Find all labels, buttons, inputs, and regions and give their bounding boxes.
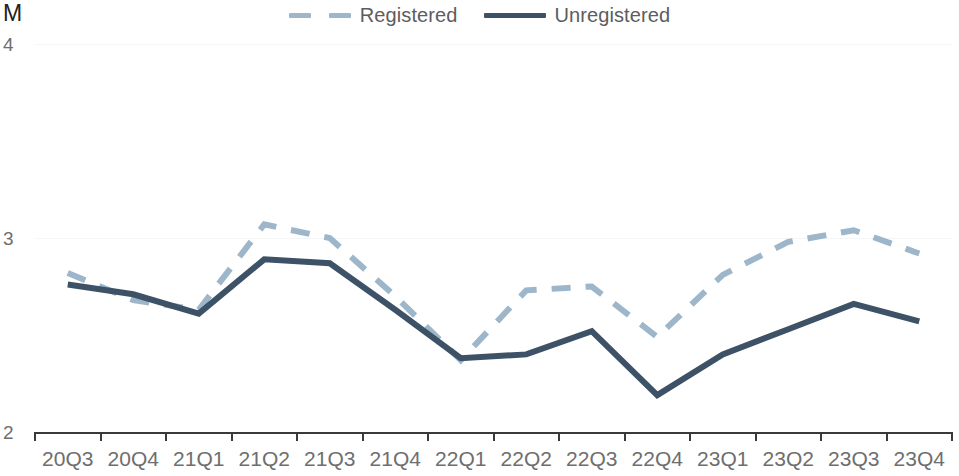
x-axis-tick-mark bbox=[689, 432, 691, 441]
x-axis-tick-mark bbox=[231, 432, 233, 441]
x-axis-tick-label-21q4: 21Q4 bbox=[370, 447, 421, 471]
x-axis-tick-label-21q2: 21Q2 bbox=[239, 447, 290, 471]
chart-plot-area bbox=[0, 0, 959, 476]
x-axis-tick-mark bbox=[165, 432, 167, 441]
x-axis-tick-mark bbox=[558, 432, 560, 441]
line-chart: Registered Unregistered M 4 3 2 20Q320Q4… bbox=[0, 0, 959, 476]
x-axis-tick-label-23q3: 23Q3 bbox=[828, 447, 879, 471]
x-axis-tick-mark bbox=[624, 432, 626, 441]
x-axis-tick-mark bbox=[820, 432, 822, 441]
x-axis-tick-label-20q4: 20Q4 bbox=[108, 447, 159, 471]
x-axis-tick-label-20q3: 20Q3 bbox=[42, 447, 93, 471]
x-axis-tick-mark bbox=[493, 432, 495, 441]
x-axis-tick-label-21q3: 21Q3 bbox=[304, 447, 355, 471]
x-axis-tick-label-22q3: 22Q3 bbox=[566, 447, 617, 471]
x-axis-tick-mark bbox=[755, 432, 757, 441]
x-axis-tick-label-21q1: 21Q1 bbox=[173, 447, 224, 471]
series-line-registered bbox=[68, 224, 920, 360]
x-axis-tick-mark bbox=[886, 432, 888, 441]
x-axis-tick-mark bbox=[34, 432, 36, 441]
x-axis-tick-mark bbox=[427, 432, 429, 441]
series-line-unregistered bbox=[68, 259, 920, 395]
x-axis-tick-label-22q2: 22Q2 bbox=[501, 447, 552, 471]
x-axis-tick-mark bbox=[362, 432, 364, 441]
x-axis-tick-mark bbox=[951, 432, 953, 441]
x-axis-tick-label-22q1: 22Q1 bbox=[435, 447, 486, 471]
x-axis-tick-label-23q4: 23Q4 bbox=[894, 447, 945, 471]
x-axis-tick-mark bbox=[100, 432, 102, 441]
x-axis-tick-label-23q1: 23Q1 bbox=[697, 447, 748, 471]
x-axis-tick-label-23q2: 23Q2 bbox=[763, 447, 814, 471]
x-axis-tick-label-22q4: 22Q4 bbox=[632, 447, 683, 471]
x-axis-tick-mark bbox=[296, 432, 298, 441]
